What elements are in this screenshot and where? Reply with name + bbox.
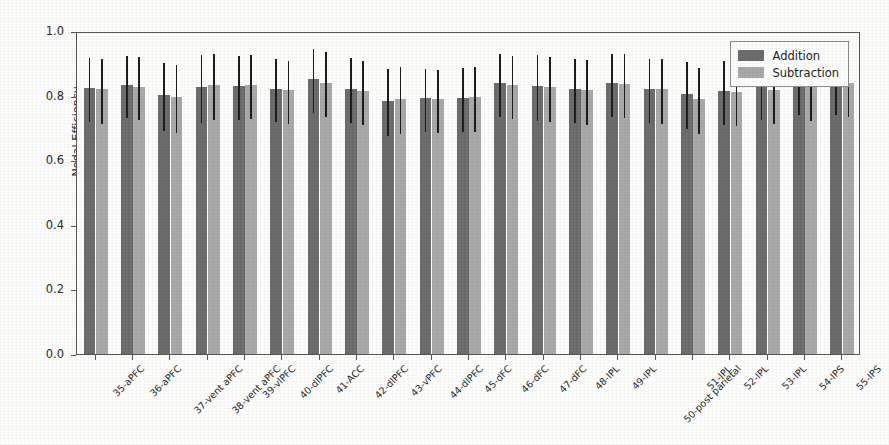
x-tick-label: 54-IPS [817,363,846,392]
bar [656,89,668,354]
bar [345,89,357,355]
y-tick-label: 0.4 [46,218,64,232]
error-bar [499,54,500,117]
error-bar [723,61,724,126]
error-bar [89,58,90,123]
bar [606,83,618,354]
bar [308,79,320,354]
error-bar [549,57,550,122]
error-bar [661,59,662,124]
error-bar [462,68,463,133]
bar [693,99,705,354]
x-tick-mark [767,355,768,360]
error-bar [213,54,214,120]
x-tick-label: 44-dlPFC [447,363,485,401]
x-tick-label: 40-dlPFC [298,363,336,401]
x-tick-mark [132,355,133,360]
bar [283,90,295,354]
x-tick-mark [692,355,693,360]
x-tick-mark [169,355,170,360]
x-tick-label: 42-dlPFC [372,363,410,401]
bar [208,85,220,354]
error-bar [537,55,538,121]
bar [805,87,817,354]
error-bar [611,54,612,117]
x-tick-mark [393,355,394,360]
figure-canvas: Nodal Efficiency 0.00.20.40.60.81.0 35-a… [0,0,889,445]
y-tick-label: 1.0 [46,24,64,38]
error-bar [362,61,363,126]
bar [731,92,743,354]
bar [768,90,780,354]
bar [532,86,544,354]
bar [681,94,693,354]
bar [96,89,108,354]
plot-area: Addition Subtraction [76,32,860,355]
error-bar [425,69,426,132]
x-tick-mark [729,355,730,360]
x-tick-mark [356,355,357,360]
legend-item-addition[interactable]: Addition [738,47,839,64]
bar [507,85,519,354]
bar [420,98,432,354]
y-tick-label: 0.8 [46,89,64,103]
bar [382,101,394,354]
error-bar [387,69,388,136]
error-bar [437,70,438,133]
legend-swatch-subtraction [738,67,764,78]
x-tick-mark [95,355,96,360]
x-tick-label: 55-IPS [854,363,883,392]
bar [84,88,96,354]
x-tick-label: 35-aPFC [110,363,146,399]
error-bar [624,54,625,117]
bar [171,97,183,354]
error-bar [512,56,513,119]
x-tick-label: 53-IPL [779,363,808,392]
x-tick-label: 47-dFC [557,363,589,395]
y-tick-label: 0.6 [46,153,64,167]
bar [196,87,208,354]
x-tick-label: 45-dFC [482,363,514,395]
x-tick-label: 48-IPL [593,363,622,392]
error-bar [163,63,164,130]
error-bar [201,55,202,123]
bar [619,84,631,354]
bar [320,83,332,354]
bar [121,85,133,354]
x-tick-mark [468,355,469,360]
bar [158,95,170,354]
legend: Addition Subtraction [730,41,849,87]
legend-label-addition: Addition [772,49,820,63]
bar [133,87,145,354]
bar [718,91,730,354]
bar [233,86,245,354]
error-bar [176,65,177,133]
x-tick-mark [281,355,282,360]
bar [644,89,656,354]
x-tick-mark [804,355,805,360]
x-tick-mark [431,355,432,360]
error-bar [325,52,326,117]
x-tick-label: 46-dFC [519,363,551,395]
error-bar [138,57,139,120]
error-bar [250,55,251,119]
bar [357,91,369,354]
legend-item-subtraction[interactable]: Subtraction [738,64,839,81]
error-bar [698,68,699,135]
legend-swatch-addition [738,50,764,61]
x-tick-mark [543,355,544,360]
x-tick-mark [505,355,506,360]
x-tick-label: 49-IPL [630,363,659,392]
error-bar [313,49,314,114]
x-tick-label: 52-IPL [742,363,771,392]
bar [494,83,506,354]
error-bar [686,62,687,129]
bar [793,81,805,354]
x-tick-mark [580,355,581,360]
error-bar [649,59,650,124]
bar [270,89,282,355]
error-bar [574,59,575,124]
y-tick-label: 0.2 [46,282,64,296]
bar [245,85,257,354]
error-bar [238,56,239,120]
